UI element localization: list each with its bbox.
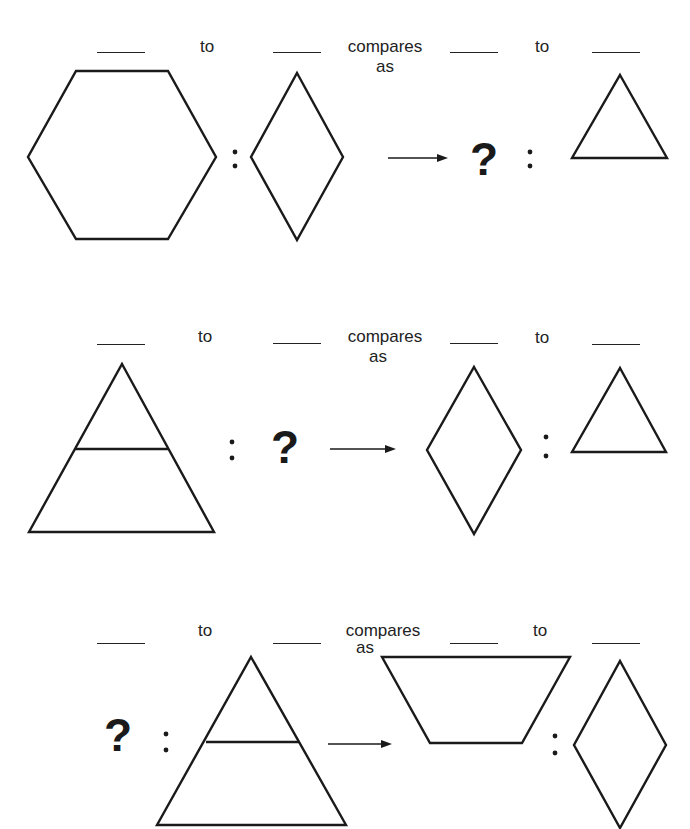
colon-dot	[553, 751, 558, 756]
colon-dot	[553, 734, 558, 739]
rhombus-shape	[574, 661, 666, 828]
triangle-shape	[572, 75, 667, 158]
colon-dot	[233, 164, 238, 169]
colon-dot	[528, 164, 533, 169]
arrow-head-icon	[385, 445, 396, 453]
arrow-head-icon	[381, 740, 392, 748]
analogy-diagram	[0, 0, 690, 829]
colon-dot	[544, 435, 549, 440]
colon-dot	[164, 732, 169, 737]
colon-dot	[164, 748, 169, 753]
hexagon-shape	[28, 71, 216, 239]
colon-dot	[230, 456, 235, 461]
colon-dot	[528, 150, 533, 155]
trapezoid-shape	[382, 657, 570, 743]
triangle-shape	[572, 368, 666, 452]
rhombus-shape	[427, 367, 521, 534]
colon-dot	[233, 150, 238, 155]
colon-dot	[544, 454, 549, 459]
rhombus-shape	[251, 73, 343, 240]
arrow-head-icon	[437, 154, 448, 162]
colon-dot	[230, 440, 235, 445]
